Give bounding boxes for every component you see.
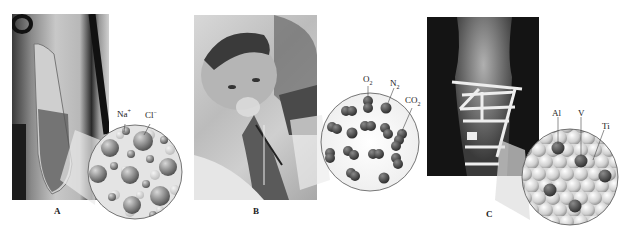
panel-label-c: C	[486, 209, 493, 219]
ti-label: Ti	[602, 121, 610, 131]
al-label: Al	[552, 108, 561, 118]
v-label: V	[578, 108, 585, 118]
magnifier-c	[0, 0, 631, 242]
